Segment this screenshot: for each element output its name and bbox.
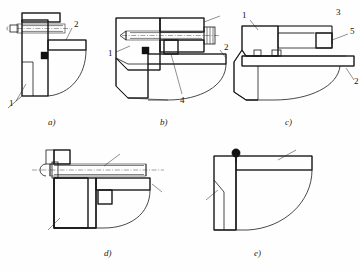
figure-b-callout-1: 1 <box>108 48 113 58</box>
figure-d: 6 2 1 <box>24 140 184 245</box>
figure-b-svg <box>108 0 238 115</box>
figure-c-callout-5: 5 <box>350 26 355 36</box>
figure-e: 2 1 <box>200 140 330 245</box>
figure-c-callout-1: 1 <box>242 10 247 20</box>
figure-d-svg <box>24 140 184 245</box>
figure-a: 2 1 <box>0 0 120 115</box>
figure-d-caption: d) <box>104 248 112 258</box>
figure-b-callout-4: 4 <box>180 95 185 105</box>
figure-a-caption: a) <box>48 117 56 127</box>
drawing-sheet: 2 1 a) <box>0 0 360 272</box>
figure-c: 1 5 2 <box>228 0 360 115</box>
figure-e-caption: e) <box>254 248 261 258</box>
figure-a-svg <box>0 0 120 115</box>
figure-b-caption: b) <box>160 117 168 127</box>
figure-b: 3 2 1 4 <box>108 0 238 115</box>
figure-c-svg <box>228 0 360 115</box>
figure-a-callout-2: 2 <box>74 19 79 29</box>
figure-a-callout-1: 1 <box>9 98 14 108</box>
figure-e-svg <box>200 140 330 245</box>
figure-c-caption: c) <box>285 117 292 127</box>
figure-c-callout-2: 2 <box>354 76 359 86</box>
